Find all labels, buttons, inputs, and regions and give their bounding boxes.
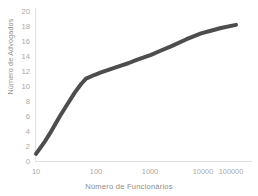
line-series-advogados [36,25,236,154]
x-tick-label: 1000 [142,167,158,176]
x-axis-title: Número de Funcionários [0,182,258,191]
x-tick-label: 100 [90,167,102,176]
x-tick-label: 10 [32,167,40,176]
x-tick-label: 10000 [193,167,214,176]
chart-container: 20 18 16 14 12 10 8 6 4 2 0 Número de Ad… [0,0,258,196]
x-tick-label: 100000 [219,167,244,176]
